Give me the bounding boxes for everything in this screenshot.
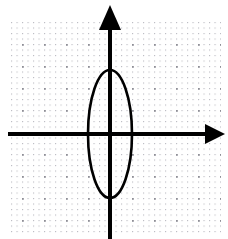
grid xyxy=(8,22,221,233)
grid-major-dots xyxy=(8,24,221,233)
graph-figure xyxy=(0,0,228,239)
coordinate-plane-svg xyxy=(0,0,228,239)
